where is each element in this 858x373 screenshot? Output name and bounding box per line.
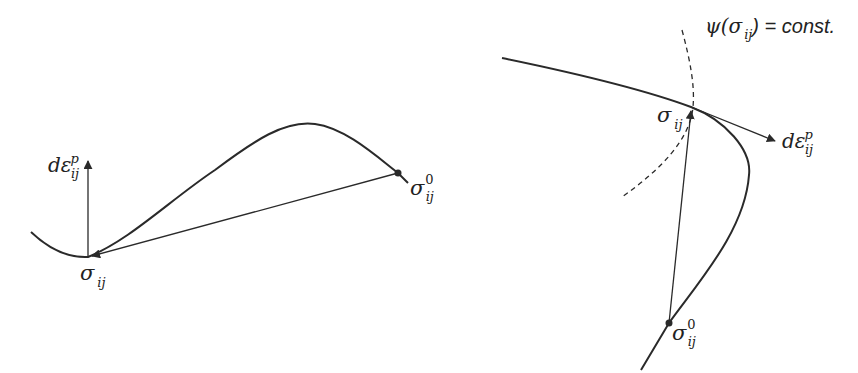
left-initial-stress-dot: [395, 170, 402, 177]
left-current-stress-label: σij: [80, 261, 106, 290]
right-chord-arrow: [669, 111, 691, 323]
right-strain-increment-label: dεpij: [782, 127, 814, 157]
left-panel: dεpij σij σ0ij: [31, 123, 434, 290]
left-chord-arrow: [92, 173, 398, 256]
right-stress-path-curve: [502, 58, 749, 370]
right-initial-stress-label: σ0ij: [672, 317, 696, 349]
right-panel: ψ(σij) = const. σij dεpij σ0ij: [502, 14, 835, 370]
diagram-canvas: dεpij σij σ0ij ψ(σij) = const. σij dεpij…: [0, 0, 858, 373]
right-current-stress-label: σij: [657, 103, 683, 132]
left-strain-increment-label: dεpij: [48, 151, 80, 181]
right-potential-label: ψ(σij) = const.: [705, 14, 835, 42]
left-initial-stress-label: σ0ij: [410, 172, 434, 204]
